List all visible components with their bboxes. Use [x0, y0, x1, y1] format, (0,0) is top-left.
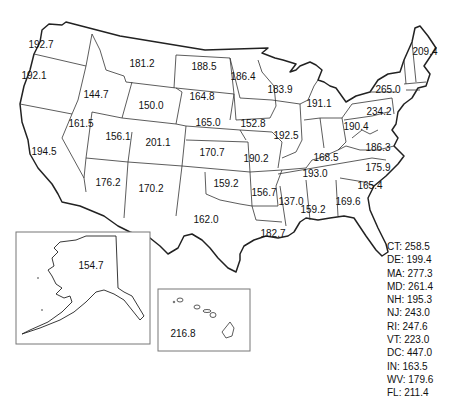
- state-label-sc: 165.4: [357, 180, 382, 191]
- side-list-item: WV: 179.6: [387, 373, 433, 386]
- state-label-nv: 161.5: [68, 118, 93, 129]
- side-list-item: FL: 211.4: [387, 386, 433, 399]
- state-label-nd: 188.5: [191, 61, 216, 72]
- side-list-item: VT: 223.0: [387, 333, 433, 346]
- state-label-ok: 159.2: [213, 178, 238, 189]
- side-list-item: NH: 195.3: [387, 293, 433, 306]
- state-label-tn: 193.0: [302, 168, 327, 179]
- side-list-item: CT: 258.5: [387, 240, 433, 253]
- state-label-mt: 181.2: [129, 58, 154, 69]
- state-label-mn: 186.4: [230, 71, 255, 82]
- side-list-item: DE: 199.4: [387, 253, 433, 266]
- state-label-la: 182.7: [260, 228, 285, 239]
- state-label-mo: 190.2: [243, 153, 268, 164]
- state-label-oh: 190.4: [343, 121, 368, 132]
- state-label-tx: 162.0: [193, 214, 218, 225]
- side-list-item: IN: 163.5: [387, 360, 433, 373]
- state-label-wa: 192.7: [28, 39, 53, 50]
- small-state-value-list: CT: 258.5DE: 199.4MA: 277.3MD: 261.4NH: …: [387, 240, 433, 400]
- state-label-wi: 183.9: [267, 84, 292, 95]
- state-label-sd: 164.8: [189, 91, 214, 102]
- side-list-item: DC: 447.0: [387, 346, 433, 359]
- side-list-item: MA: 277.3: [387, 267, 433, 280]
- state-label-il: 192.5: [273, 130, 298, 141]
- state-label-hi: 216.8: [170, 328, 195, 339]
- side-list-item: MD: 261.4: [387, 280, 433, 293]
- state-label-ca: 194.5: [31, 146, 56, 157]
- state-label-nm: 170.2: [138, 183, 163, 194]
- state-label-az: 176.2: [95, 177, 120, 188]
- side-list-item: RI: 247.6: [387, 320, 433, 333]
- state-label-ne: 165.0: [195, 117, 220, 128]
- state-label-ut: 156.1: [105, 131, 130, 142]
- state-label-ar: 156.7: [251, 187, 276, 198]
- state-label-ny: 265.0: [375, 84, 400, 95]
- state-label-ia: 152.8: [240, 118, 265, 129]
- state-label-ks: 170.7: [199, 147, 224, 158]
- state-label-id: 144.7: [83, 89, 108, 100]
- state-label-co: 201.1: [145, 137, 170, 148]
- state-label-pa: 234.2: [366, 106, 391, 117]
- state-label-ak: 154.7: [78, 260, 103, 271]
- state-label-me: 209.4: [412, 46, 437, 57]
- hawaii-inset-frame: [158, 289, 250, 351]
- state-label-or: 192.1: [21, 70, 46, 81]
- state-label-al: 159.2: [300, 204, 325, 215]
- side-list-item: NJ: 243.0: [387, 306, 433, 319]
- state-label-mi: 191.1: [306, 98, 331, 109]
- state-label-ky: 168.5: [313, 152, 338, 163]
- state-label-ga: 169.6: [335, 196, 360, 207]
- state-label-wy: 150.0: [138, 100, 163, 111]
- state-label-va: 186.3: [365, 142, 390, 153]
- state-label-nc: 175.9: [365, 162, 390, 173]
